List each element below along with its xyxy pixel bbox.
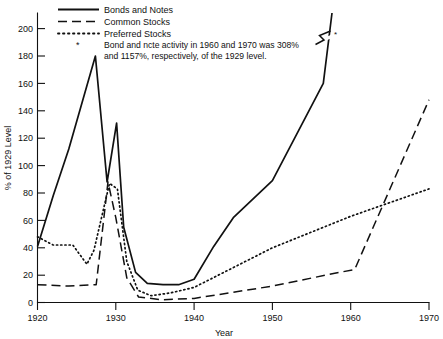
x-tick-label-1920: 1920 — [27, 313, 47, 323]
y-tick-label-40: 40 — [23, 243, 33, 253]
chart-container: 200 180 160 140 120 100 80 60 40 20 0 19… — [0, 0, 443, 339]
x-tick-label-1930: 1930 — [106, 313, 126, 323]
legend-item-common-stocks: Common Stocks — [58, 17, 171, 27]
chart-legend: Bonds and Notes Common Stocks Preferred … — [58, 5, 299, 61]
x-tick-label-1970: 1970 — [419, 313, 439, 323]
line-chart: 200 180 160 140 120 100 80 60 40 20 0 19… — [0, 0, 443, 339]
axis-break-asterisk-marker: * — [334, 30, 337, 39]
footnote-line-1: Bond and ncte activity in 1960 and 1970 … — [104, 40, 299, 50]
legend-item-preferred-stocks: Preferred Stocks — [58, 29, 172, 39]
y-axis-tick-labels: 200 180 160 140 120 100 80 60 40 20 0 — [18, 24, 33, 308]
y-tick-label-80: 80 — [23, 188, 33, 198]
y-tick-label-0: 0 — [28, 298, 33, 308]
y-tick-label-60: 60 — [23, 216, 33, 226]
legend-label-bonds-and-notes: Bonds and Notes — [104, 5, 174, 15]
y-tick-label-200: 200 — [18, 24, 33, 34]
x-tick-label-1960: 1960 — [341, 313, 361, 323]
series-common-stocks — [38, 100, 430, 300]
y-tick-label-20: 20 — [23, 270, 33, 280]
legend-label-preferred-stocks: Preferred Stocks — [104, 29, 172, 39]
y-axis-title: % of 1929 Level — [3, 126, 13, 191]
legend-item-bonds-and-notes: Bonds and Notes — [58, 5, 174, 15]
y-tick-label-120: 120 — [18, 133, 33, 143]
x-axis-ticks — [38, 303, 430, 311]
x-tick-label-1950: 1950 — [262, 313, 282, 323]
legend-item-footnote: * Bond and ncte activity in 1960 and 197… — [76, 40, 299, 61]
y-tick-label-100: 100 — [18, 161, 33, 171]
x-axis-title: Year — [215, 328, 233, 338]
x-axis-tick-labels: 1920 1930 1940 1950 1960 1970 — [27, 313, 439, 323]
y-tick-label-160: 160 — [18, 79, 33, 89]
x-tick-label-1940: 1940 — [184, 313, 204, 323]
footnote-asterisk-marker: * — [76, 40, 80, 50]
y-tick-label-180: 180 — [18, 51, 33, 61]
y-axis-ticks — [38, 29, 46, 303]
legend-label-common-stocks: Common Stocks — [104, 17, 171, 27]
y-tick-label-140: 140 — [18, 106, 33, 116]
footnote-line-2: and 1157%, respectively, of the 1929 lev… — [104, 51, 267, 61]
